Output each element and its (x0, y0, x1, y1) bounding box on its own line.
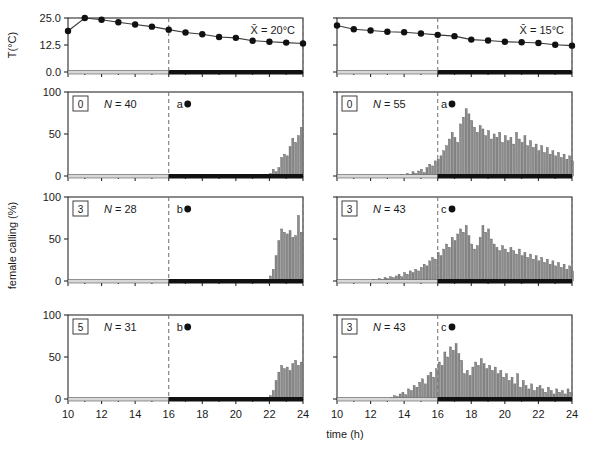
histogram-bar (426, 266, 428, 281)
temperature-axis-label: T(°C) (6, 32, 18, 58)
histogram-bar (455, 344, 457, 399)
histogram-bar (486, 369, 488, 399)
x-tick-label: 16 (163, 408, 175, 420)
histogram-bar (514, 384, 516, 399)
histogram-bar (552, 151, 554, 176)
x-tick-label: 10 (62, 408, 74, 420)
histogram-bar (476, 132, 478, 176)
histogram-bar (468, 236, 470, 281)
histogram-bar (543, 263, 545, 281)
histogram-bar (482, 226, 484, 281)
histogram-bar (500, 370, 502, 399)
histogram-bar (557, 263, 559, 281)
x-tick-label: 20 (499, 408, 511, 420)
histogram-bar (504, 136, 506, 176)
sample-size-label: N = 31 (104, 321, 137, 333)
x-tick-label: 22 (263, 408, 275, 420)
histogram-bar (451, 132, 453, 176)
histogram-bar (510, 137, 512, 176)
histogram-bar (569, 156, 571, 176)
sample-size-label: N = 40 (104, 98, 137, 110)
histogram-bar (538, 261, 540, 281)
histogram-bar (527, 257, 529, 281)
histogram-bar (485, 232, 487, 281)
histogram-bar (531, 384, 533, 399)
temperature-point (367, 27, 373, 33)
histogram-bar (539, 386, 541, 399)
temperature-point (418, 30, 424, 36)
histogram-bar (437, 159, 439, 176)
photophase-bar (68, 175, 169, 179)
histogram-bar (421, 379, 423, 399)
scotophase-bar (169, 279, 303, 284)
y-tick-label: 0 (55, 275, 61, 287)
histogram-bar (275, 256, 277, 281)
temperature-point (166, 26, 172, 32)
histogram-bar (504, 249, 506, 281)
sample-size-label: N = 28 (104, 203, 137, 215)
histogram-bar (281, 229, 283, 281)
histogram-bar (543, 152, 545, 176)
histogram-bar (423, 264, 425, 281)
temperature-point (283, 39, 289, 45)
histogram-bar (507, 141, 509, 176)
x-tick-label: 14 (398, 408, 410, 420)
histogram-bar (552, 261, 554, 281)
histogram-bar (489, 365, 491, 399)
histogram-bar (472, 367, 474, 399)
histogram-bar (502, 142, 504, 176)
calling-axis-label: female calling (%) (6, 202, 18, 289)
histogram-bar (560, 158, 562, 176)
histogram-bar (499, 251, 501, 281)
x-tick-label: 18 (196, 408, 208, 420)
histogram-bar (488, 131, 490, 176)
histogram-bar (497, 374, 499, 399)
y-tick-label: 0 (55, 170, 61, 182)
calling-panel-right-row2: 3N = 43c (333, 197, 573, 286)
histogram-bar (286, 234, 288, 281)
group-dot-icon (449, 206, 456, 213)
y-tick-label: 50 (49, 233, 61, 245)
histogram-bar (460, 229, 462, 281)
temperature-point (401, 29, 407, 35)
histogram-bar (563, 264, 565, 281)
group-letter-label: c (441, 203, 447, 215)
temperature-point (300, 40, 306, 46)
histogram-bar (549, 154, 551, 176)
y-tick-label: 100 (43, 86, 61, 98)
scotophase-bar (169, 397, 303, 402)
temperature-point (502, 39, 508, 45)
histogram-bar (289, 370, 291, 399)
histogram-bar (479, 237, 481, 281)
temperature-point (334, 22, 340, 28)
histogram-bar (286, 156, 288, 176)
histogram-bar (434, 259, 436, 281)
age-box-label: 0 (347, 99, 353, 110)
calling-panel-left-row2: 0501003N = 28b (43, 191, 303, 287)
sample-size-label: N = 43 (373, 321, 406, 333)
mean-temperature-label: X̄ = 15°C (520, 24, 565, 36)
group-letter-label: b (177, 321, 183, 333)
temperature-point (518, 39, 524, 45)
scotophase-bar (438, 397, 572, 402)
histogram-bar (524, 252, 526, 281)
histogram-bar (281, 158, 283, 176)
histogram-bar (443, 249, 445, 281)
histogram-bar (438, 362, 440, 399)
histogram-bar (278, 372, 280, 399)
histogram-bar (488, 229, 490, 281)
histogram-bar (475, 362, 477, 399)
histogram-bar (493, 134, 495, 176)
temperature-point (132, 21, 138, 27)
histogram-bar (560, 268, 562, 281)
y-tick-label: 25.0 (40, 12, 61, 24)
histogram-bar (286, 367, 288, 399)
histogram-bar (471, 244, 473, 281)
mean-temperature-label: X̄ = 20°C (251, 24, 296, 36)
histogram-bar (295, 236, 297, 281)
histogram-bar (496, 247, 498, 281)
x-tick-label: 24 (566, 408, 578, 420)
histogram-bar (452, 350, 454, 399)
figure-root: 0.012.525.0X̄ = 20°CX̄ = 15°CT(°C)050100… (0, 0, 613, 456)
histogram-bar (510, 247, 512, 281)
